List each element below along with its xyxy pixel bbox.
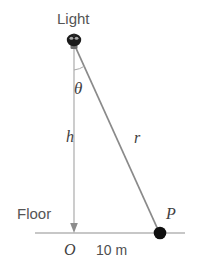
- height-label: h: [66, 129, 74, 145]
- filled-circle-icon: [154, 227, 167, 240]
- diagram-graphics: [0, 0, 199, 279]
- light-bulb-highlight2-icon: [75, 37, 79, 40]
- floor-label: Floor: [17, 206, 51, 221]
- figure-canvas: Light Floor θ h r O P 10 m: [0, 0, 199, 279]
- light-stem-icon: [73, 34, 76, 37]
- down-arrow-icon: [70, 223, 78, 233]
- distance-label: 10 m: [96, 243, 127, 257]
- theta-angle-label: θ: [74, 80, 82, 97]
- light-label: Light: [57, 11, 90, 26]
- light-bulb-highlight-icon: [70, 37, 74, 40]
- origin-label: O: [64, 242, 76, 258]
- hypotenuse-line-r: [75, 46, 159, 232]
- radius-label: r: [134, 130, 140, 146]
- angle-arc-theta: [74, 66, 85, 70]
- point-p-label: P: [166, 206, 176, 222]
